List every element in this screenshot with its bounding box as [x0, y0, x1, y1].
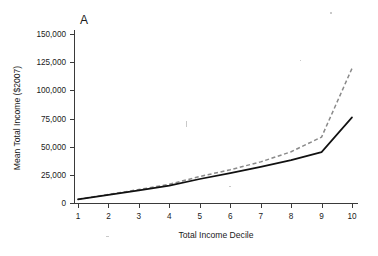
x-tick-label: 3	[137, 212, 142, 221]
x-tick-label: 9	[319, 212, 324, 221]
x-axis-title: Total Income Decile	[179, 230, 254, 240]
y-tick-label: 50,000	[41, 143, 66, 152]
figure-panel-a: A 025,00050,00075,000100,000125,000150,0…	[0, 0, 378, 256]
y-tick-label: 125,000	[36, 58, 66, 67]
series-line-solid	[78, 117, 352, 199]
x-tick-label: 1	[76, 212, 81, 221]
y-tick-label: 0	[61, 199, 66, 208]
y-axis-title: Mean Total Income ($2007)	[12, 66, 22, 171]
x-tick-label: 8	[289, 212, 294, 221]
x-tick-label: 5	[197, 212, 202, 221]
x-tick-label: 10	[347, 212, 357, 221]
y-tick-label: 100,000	[36, 86, 66, 95]
x-tick-label: 4	[167, 212, 172, 221]
y-tick-label: 150,000	[36, 30, 66, 39]
x-axis-ticks: 12345678910	[76, 204, 357, 222]
y-tick-label: 25,000	[41, 171, 66, 180]
series-line-dashed	[78, 68, 352, 199]
y-axis-ticks: 025,00050,00075,000100,000125,000150,000	[36, 30, 74, 208]
x-tick-label: 6	[228, 212, 233, 221]
x-tick-label: 7	[258, 212, 263, 221]
panel-label: A	[80, 13, 88, 27]
y-tick-label: 75,000	[41, 115, 66, 124]
x-tick-label: 2	[106, 212, 111, 221]
line-chart: A 025,00050,00075,000100,000125,000150,0…	[0, 0, 378, 256]
